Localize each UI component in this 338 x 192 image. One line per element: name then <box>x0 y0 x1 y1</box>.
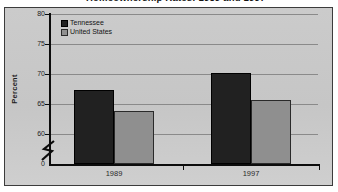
bar-tennessee-1997 <box>211 73 251 164</box>
x-tick-mark <box>319 166 320 170</box>
x-axis-line <box>49 164 320 166</box>
bar-united-states-1989 <box>114 111 154 164</box>
x-tick-mark <box>183 166 184 170</box>
legend-item-united-states: United States <box>61 28 112 36</box>
legend-item-tennessee: Tennessee <box>61 19 112 27</box>
page: { "title_fragment": "Homeownership Rates… <box>0 0 338 192</box>
legend-swatch-tennessee-icon <box>61 20 68 27</box>
legend-label-united-states: United States <box>70 28 112 36</box>
y-tick-label: 65 <box>23 100 45 107</box>
x-category-label: 1989 <box>92 169 136 178</box>
bar-united-states-1997 <box>251 100 291 164</box>
bar-tennessee-1989 <box>74 90 114 164</box>
gridline <box>49 14 318 15</box>
chart-area: 6065707580019891997 Percent Tennessee Un… <box>4 7 333 186</box>
axis-break-icon <box>41 140 57 162</box>
legend-swatch-united-states-icon <box>61 29 68 36</box>
y-axis-title: Percent <box>10 59 20 119</box>
y-tick-label: 75 <box>23 40 45 47</box>
y-tick-label: 80 <box>23 10 45 17</box>
gridline <box>49 44 318 45</box>
chart-title-text: Homeownership Rates: 1989 and 1997 <box>86 0 326 3</box>
legend: Tennessee United States <box>61 19 112 37</box>
gridline <box>49 74 318 75</box>
x-category-label: 1997 <box>229 169 273 178</box>
y-tick-label: 60 <box>23 130 45 137</box>
legend-label-tennessee: Tennessee <box>70 19 104 27</box>
y-tick-label: 70 <box>23 70 45 77</box>
chart-title-fragment: Homeownership Rates: 1989 and 1997 <box>86 0 326 6</box>
